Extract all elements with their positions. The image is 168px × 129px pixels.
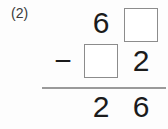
minuend-ones-answer-box[interactable]: [124, 8, 158, 42]
difference-ones-digit: 6: [124, 90, 158, 124]
minuend-tens-digit: 6: [84, 6, 118, 40]
subtrahend-tens-answer-box[interactable]: [84, 44, 118, 78]
subtrahend-ones-digit: 2: [124, 44, 158, 78]
subtraction-worksheet-problem: (2) 6 − 2 2 6: [0, 0, 168, 129]
sum-divider-rule: [42, 87, 166, 89]
minus-operator-icon: −: [50, 44, 76, 78]
difference-tens-digit: 2: [84, 90, 118, 124]
problem-number-label: (2): [11, 4, 28, 22]
